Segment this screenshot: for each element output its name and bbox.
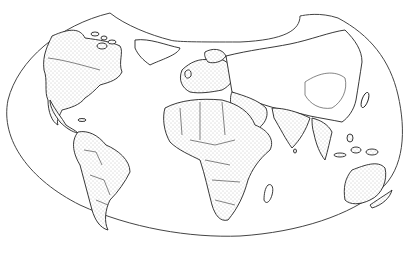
caribbean-islands bbox=[78, 119, 86, 122]
world-map bbox=[0, 0, 416, 253]
sri-lanka bbox=[294, 149, 297, 153]
uk bbox=[185, 70, 191, 78]
